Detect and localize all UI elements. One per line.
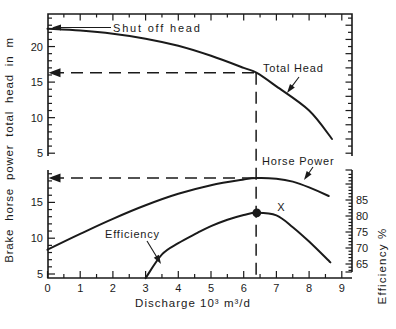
hp-tick-label: 10 [31, 232, 43, 244]
figure: 51015205101501234567896570758085Shut off… [0, 0, 396, 329]
eff-tick-label: 80 [356, 210, 368, 222]
operating-point-marker [252, 208, 261, 217]
x-tick-label: 6 [241, 282, 247, 294]
tick-labels: 51015205101501234567896570758085 [31, 41, 369, 294]
head-guide-arrowhead [49, 68, 61, 77]
head-tick-label: 20 [31, 41, 43, 53]
horse-power-label: Horse Power [262, 155, 334, 167]
x-tick-label: 3 [143, 282, 149, 294]
x-tick-label: 5 [208, 282, 214, 294]
head-tick-label: 15 [31, 76, 43, 88]
right-y-axis-title: Efficiency % [376, 228, 388, 305]
x-tick-label: 7 [273, 282, 279, 294]
pump-performance-chart: 51015205101501234567896570758085Shut off… [0, 0, 396, 329]
total-head-label: Total Head [263, 62, 324, 74]
total-head-arrow-arrowhead [287, 84, 295, 93]
eff-tick-label: 85 [356, 194, 368, 206]
x-tick-label: 9 [339, 282, 345, 294]
efficiency-curve [146, 213, 331, 278]
top-panel-frame [48, 14, 352, 156]
operating-point-guides [49, 68, 257, 278]
efficiency-arrow-line [147, 241, 157, 258]
head-tick-label: 10 [31, 112, 43, 124]
x-tick-label: 0 [44, 282, 50, 294]
efficiency-label: Efficiency [105, 228, 160, 240]
hp-tick-label: 5 [37, 268, 43, 280]
x-tick-label: 1 [77, 282, 83, 294]
eff-tick-label: 65 [356, 258, 368, 270]
x-tick-label: 4 [175, 282, 181, 294]
left-y-axis-title: Brake horse power total head in m [3, 37, 15, 263]
hp-tick-label: 15 [31, 196, 43, 208]
eff-tick-label: 75 [356, 226, 368, 238]
shut-off-head-label: Shut off head [113, 22, 202, 34]
x-tick-label: 8 [306, 282, 312, 294]
operating-point-x-label: X [277, 201, 285, 213]
x-tick-label: 2 [110, 282, 116, 294]
horse-power-curve [48, 178, 329, 250]
axis-titles: Discharge 10³ m³/dBrake horse power tota… [3, 37, 388, 308]
x-axis-title: Discharge 10³ m³/d [135, 297, 251, 309]
eff-tick-label: 70 [356, 242, 368, 254]
head-tick-label: 5 [37, 147, 43, 159]
horse-power-arrow-arrowhead [304, 171, 312, 180]
total-head-curve [48, 29, 333, 139]
